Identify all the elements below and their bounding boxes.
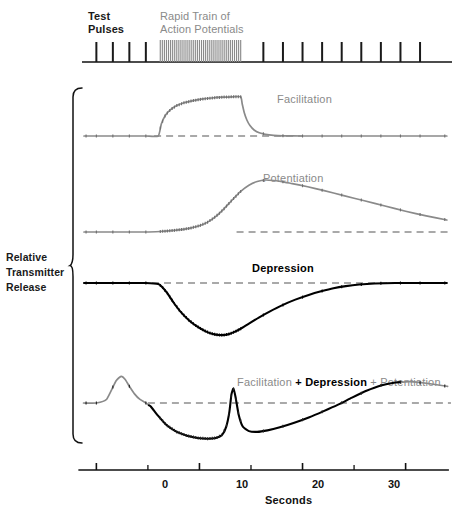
brace-path <box>70 88 82 443</box>
curve-potentiation <box>84 180 447 232</box>
panel-potentiation <box>84 179 451 234</box>
figure-root: Test Pulses Rapid Train of Action Potent… <box>0 0 464 515</box>
curve-combined-seg-2 <box>401 382 447 387</box>
x-axis-group <box>78 463 449 470</box>
panel-combined <box>84 376 451 440</box>
curve-combined-seg-0 <box>84 376 149 405</box>
curve-combined-seg-1 <box>149 382 402 439</box>
stimulus-train-group <box>82 40 452 62</box>
figure-canvas <box>0 0 464 515</box>
y-axis-brace <box>70 88 82 443</box>
curve-panels-group <box>84 95 451 440</box>
curve-facilitation <box>84 97 447 137</box>
panel-facilitation <box>84 95 447 137</box>
panel-depression <box>84 282 451 337</box>
curve-depression <box>84 283 447 335</box>
